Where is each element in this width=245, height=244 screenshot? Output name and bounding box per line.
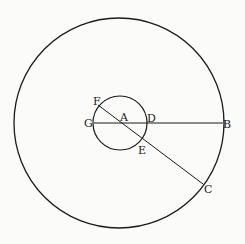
label-f: F [93,95,101,108]
concentric-circles-diagram: F G A D E B C [0,0,245,244]
label-c: C [204,183,212,196]
label-g: G [84,117,93,130]
label-e: E [138,144,146,157]
label-a: A [119,111,129,124]
label-b: B [223,118,231,131]
label-d: D [147,112,156,125]
